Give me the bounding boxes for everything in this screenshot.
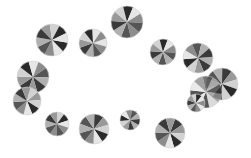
- pinwheel-disc: [183, 43, 213, 73]
- pinwheel-disc: [79, 114, 109, 144]
- pinwheel-disc: [13, 87, 41, 115]
- pinwheel-disc: [120, 110, 140, 130]
- pinwheel-disc: [155, 118, 185, 148]
- pinwheel-disc: [45, 112, 69, 136]
- pinwheel-disc: [150, 39, 176, 65]
- pinwheel-disc: [111, 6, 143, 38]
- pinwheel-disc: [79, 29, 107, 57]
- pinwheel-disc-figure: [0, 0, 251, 158]
- pinwheel-disc: [36, 24, 68, 56]
- pinwheel-disc: [187, 94, 205, 112]
